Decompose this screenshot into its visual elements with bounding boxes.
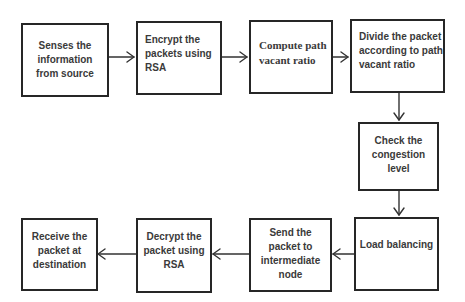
node-divide-packet: Divide the packet according to path vaca… <box>350 19 445 93</box>
arrow-send-to-decrypt <box>213 249 249 259</box>
arrow-check-to-load <box>394 191 404 215</box>
node-label: Decrypt the packet using RSA <box>143 230 204 272</box>
arrow-load-to-send <box>333 249 354 259</box>
node-label: Senses the information from source <box>36 39 94 81</box>
node-label: Check the congestion level <box>372 134 425 176</box>
node-senses-information: Senses the information from source <box>21 23 109 97</box>
node-check-congestion: Check the congestion level <box>358 122 439 191</box>
node-compute-path-vacant-ratio: Compute path vacant ratio <box>249 20 333 94</box>
node-receive-packet: Receive the packet at destination <box>21 218 98 291</box>
node-label: Compute path vacant ratio <box>259 38 327 68</box>
arrow-decrypt-to-receive <box>98 249 136 259</box>
node-label: Encrypt the packets using RSA <box>145 33 212 75</box>
arrow-senses-to-encrypt <box>106 52 134 62</box>
node-label: Load balancing <box>360 238 433 252</box>
node-load-balancing: Load balancing <box>354 217 439 291</box>
node-label: Send the packet to intermediate node <box>261 226 320 282</box>
arrow-encrypt-to-compute <box>222 52 247 62</box>
node-send-packet: Send the packet to intermediate node <box>249 218 332 292</box>
arrow-divide-to-check <box>394 93 404 120</box>
node-decrypt-packet: Decrypt the packet using RSA <box>136 218 212 293</box>
node-encrypt-packets: Encrypt the packets using RSA <box>136 21 222 95</box>
node-label: Receive the packet at destination <box>32 230 88 272</box>
arrow-compute-to-divide <box>333 52 348 62</box>
flowchart: Senses the information from source Encry… <box>0 0 465 302</box>
node-label: Divide the packet according to path vaca… <box>359 30 443 72</box>
